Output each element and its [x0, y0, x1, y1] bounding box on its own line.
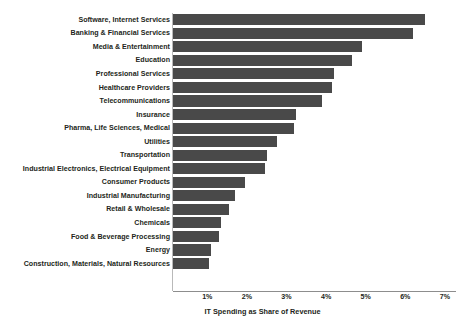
bar[interactable] [173, 231, 219, 242]
chart-row: Education [0, 54, 459, 68]
chart-row: Pharma, Life Sciences, Medical [0, 121, 459, 135]
bar-track [173, 177, 245, 188]
bar-track [173, 163, 265, 174]
bar-track [173, 109, 296, 120]
bar-track [173, 150, 267, 161]
category-label: Insurance [2, 111, 170, 119]
bar[interactable] [173, 68, 334, 79]
x-tick-label: 6% [400, 293, 410, 301]
category-label: Consumer Products [2, 178, 170, 186]
chart-row: Telecommunications [0, 94, 459, 108]
x-tick-label: 1% [202, 293, 212, 301]
bar-track [173, 258, 209, 269]
chart-rows: Software, Internet ServicesBanking & Fin… [0, 13, 459, 270]
bar[interactable] [173, 163, 265, 174]
chart-row: Software, Internet Services [0, 13, 459, 27]
bar-track [173, 14, 425, 25]
category-label: Construction, Materials, Natural Resourc… [2, 260, 170, 268]
bar-track [173, 190, 235, 201]
chart-row: Chemicals [0, 216, 459, 230]
chart-row: Energy [0, 243, 459, 257]
bar[interactable] [173, 204, 229, 215]
bar[interactable] [173, 55, 352, 66]
chart-row: Consumer Products [0, 176, 459, 190]
bar[interactable] [173, 136, 277, 147]
x-tick-label: 4% [321, 293, 331, 301]
bar[interactable] [173, 244, 211, 255]
bar-chart: Software, Internet ServicesBanking & Fin… [0, 0, 459, 334]
x-axis-tick-labels: 1%2%3%4%5%6%7% [0, 293, 459, 305]
chart-row: Healthcare Providers [0, 81, 459, 95]
bar[interactable] [173, 150, 267, 161]
bar-track [173, 231, 219, 242]
bar[interactable] [173, 217, 221, 228]
x-tick-label: 7% [440, 293, 450, 301]
bar-track [173, 41, 362, 52]
category-label: Retail & Wholesale [2, 205, 170, 213]
category-label: Energy [2, 246, 170, 254]
bar-track [173, 55, 352, 66]
category-label: Food & Beverage Processing [2, 233, 170, 241]
bar-track [173, 82, 332, 93]
bar[interactable] [173, 123, 294, 134]
chart-row: Media & Entertainment [0, 40, 459, 54]
bar[interactable] [173, 109, 296, 120]
bar[interactable] [173, 41, 362, 52]
category-label: Chemicals [2, 219, 170, 227]
bar[interactable] [173, 190, 235, 201]
chart-row: Construction, Materials, Natural Resourc… [0, 257, 459, 271]
x-tick-label: 2% [242, 293, 252, 301]
chart-row: Retail & Wholesale [0, 203, 459, 217]
category-label: Utilities [2, 138, 170, 146]
chart-row: Transportation [0, 148, 459, 162]
x-axis-title-text: IT Spending as Share of Revenue [204, 307, 320, 316]
bar[interactable] [173, 177, 245, 188]
bar-track [173, 217, 221, 228]
bar-track [173, 95, 322, 106]
x-axis-line [173, 291, 456, 292]
x-axis-title: IT Spending as Share of Revenue [0, 307, 459, 316]
category-label: Healthcare Providers [2, 84, 170, 92]
bar-track [173, 28, 413, 39]
bar-track [173, 244, 211, 255]
bar[interactable] [173, 14, 425, 25]
chart-row: Professional Services [0, 67, 459, 81]
chart-row: Industrial Manufacturing [0, 189, 459, 203]
chart-row: Utilities [0, 135, 459, 149]
bar-track [173, 68, 334, 79]
category-label: Transportation [2, 151, 170, 159]
category-label: Professional Services [2, 70, 170, 78]
bar[interactable] [173, 258, 209, 269]
category-label: Media & Entertainment [2, 43, 170, 51]
chart-row: Insurance [0, 108, 459, 122]
bar-track [173, 136, 277, 147]
category-label: Software, Internet Services [2, 16, 170, 24]
bar[interactable] [173, 82, 332, 93]
bar-track [173, 204, 229, 215]
category-label: Pharma, Life Sciences, Medical [2, 124, 170, 132]
y-axis-line [172, 13, 173, 291]
x-tick-label: 5% [361, 293, 371, 301]
category-label: Telecommunications [2, 97, 170, 105]
chart-row: Food & Beverage Processing [0, 230, 459, 244]
chart-row: Industrial Electronics, Electrical Equip… [0, 162, 459, 176]
category-label: Industrial Manufacturing [2, 192, 170, 200]
category-label: Banking & Financial Services [2, 29, 170, 37]
x-tick-label: 3% [281, 293, 291, 301]
category-label: Education [2, 56, 170, 64]
chart-row: Banking & Financial Services [0, 27, 459, 41]
bar[interactable] [173, 28, 413, 39]
bar-track [173, 123, 294, 134]
category-label: Industrial Electronics, Electrical Equip… [2, 165, 170, 173]
bar[interactable] [173, 95, 322, 106]
